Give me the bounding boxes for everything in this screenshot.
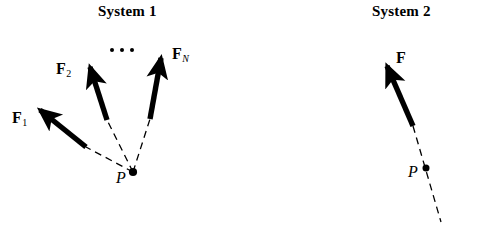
diagram-canvas (0, 0, 479, 233)
system2-title: System 2 (372, 3, 431, 20)
physics-force-diagram: System 1 System 2 F1 F2 FN F P P (0, 0, 479, 233)
fn-dashed-line-of-action (133, 119, 150, 172)
f-force-arrow (387, 66, 413, 126)
system2-point-p-dot (423, 165, 430, 172)
ellipsis-dot-3 (130, 48, 134, 52)
ellipsis-dot-1 (110, 48, 114, 52)
f2-label-base: F (56, 60, 66, 77)
f1-label: F1 (12, 110, 27, 128)
fn-force-arrow (150, 58, 161, 119)
f2-force-arrow (90, 67, 107, 120)
fn-label: FN (172, 46, 189, 64)
ellipsis-dot-2 (120, 48, 124, 52)
f2-dashed-line-of-action (107, 120, 133, 172)
f1-label-base: F (12, 109, 22, 126)
fn-label-base: F (172, 45, 182, 62)
f2-label-subscript: 2 (66, 68, 72, 79)
f-label-base: F (396, 49, 406, 66)
system2-point-p-label: P (408, 164, 418, 180)
f1-label-subscript: 1 (22, 117, 28, 128)
system1-point-p-label: P (116, 170, 126, 186)
f-label: F (396, 50, 406, 66)
system1-title: System 1 (98, 3, 157, 20)
f2-label: F2 (56, 61, 71, 79)
f1-force-arrow (40, 110, 86, 147)
system1-point-p-dot (129, 168, 137, 176)
ellipsis-dots-icon (110, 48, 134, 52)
fn-label-subscript: N (182, 53, 189, 64)
